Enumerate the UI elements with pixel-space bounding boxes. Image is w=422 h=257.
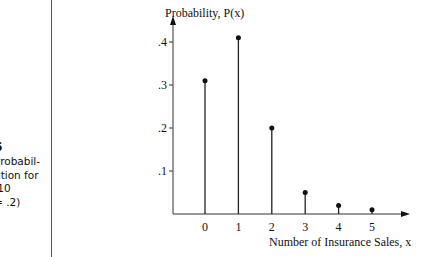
stem-dot-icon: [370, 207, 375, 212]
y-axis-label: Probability, P(x): [165, 6, 244, 20]
stem-dot-icon: [336, 203, 341, 208]
chart-axes: [170, 16, 410, 217]
x-tick-label: 2: [269, 220, 275, 234]
x-tick-label: 3: [302, 220, 308, 234]
y-ticks: .1.2.3.4: [158, 35, 173, 178]
y-tick-label: .1: [158, 164, 167, 178]
stem-dot-icon: [269, 126, 274, 131]
probability-stem-chart: Probability, P(x) Number of Insurance Sa…: [0, 0, 422, 257]
stem-dot-icon: [303, 190, 308, 195]
stem-dot-icon: [236, 35, 241, 40]
x-tick-label: 0: [202, 220, 208, 234]
stems: [203, 35, 375, 214]
stem-dot-icon: [203, 78, 208, 83]
x-ticks: 012345: [202, 220, 375, 234]
x-tick-label: 4: [336, 220, 342, 234]
y-tick-label: .2: [158, 121, 167, 135]
x-tick-label: 5: [369, 220, 375, 234]
y-tick-label: .4: [158, 35, 167, 49]
x-axis-arrow-icon: [401, 211, 410, 217]
x-axis-label: Number of Insurance Sales, x: [269, 235, 411, 249]
x-tick-label: 1: [235, 220, 241, 234]
y-tick-label: .3: [158, 78, 167, 92]
